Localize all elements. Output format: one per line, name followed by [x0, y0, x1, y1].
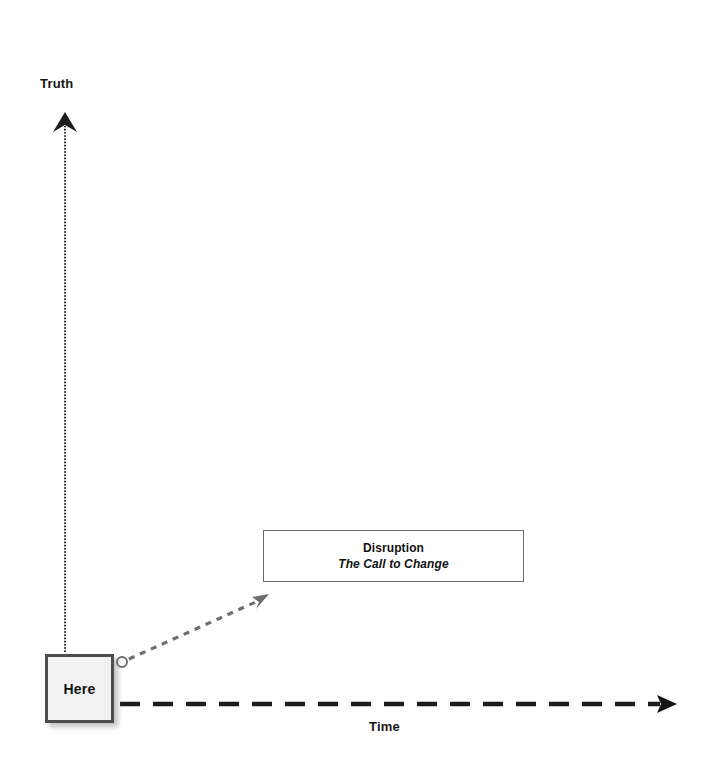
here-node[interactable]: Here [45, 654, 114, 723]
disruption-node-subtitle: The Call to Change [338, 556, 448, 572]
connector-origin-circle-icon [117, 657, 127, 667]
time-axis-label: Time [369, 719, 400, 734]
disruption-node-title: Disruption [363, 541, 424, 556]
disruption-node[interactable]: Disruption The Call to Change [263, 530, 524, 582]
here-node-label: Here [64, 681, 96, 697]
here-to-disruption-connector [117, 594, 269, 667]
truth-axis-label: Truth [40, 76, 74, 91]
truth-axis [53, 112, 77, 652]
time-axis [120, 695, 677, 713]
connector-dashed-line [129, 601, 258, 659]
connector-arrowhead-icon [252, 594, 269, 609]
